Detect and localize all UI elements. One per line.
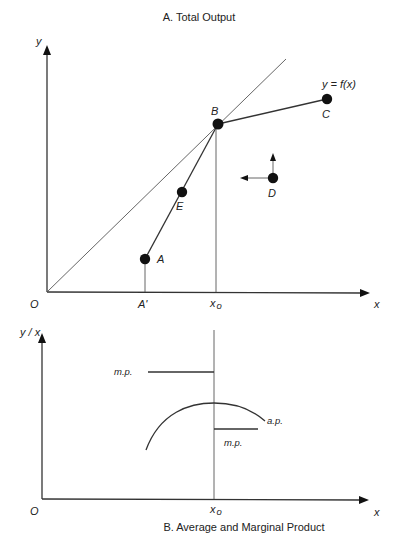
- point-a: [140, 254, 150, 264]
- point-c: [322, 94, 332, 104]
- point-b: [213, 119, 224, 130]
- point-b-label: B: [211, 105, 218, 117]
- panel-b-x-axis: [42, 499, 360, 500]
- arrow-up-icon: [270, 153, 276, 161]
- panel-a-x-label: x: [373, 298, 380, 310]
- mp-left-label: m.p.: [114, 366, 132, 377]
- panel-a-y-label: y: [35, 35, 43, 47]
- arrow-left-icon: [240, 175, 248, 181]
- panel-b-title: B. Average and Marginal Product: [163, 521, 324, 533]
- panel-b-origin-label: O: [30, 505, 39, 517]
- ap-curve: [146, 403, 265, 450]
- point-e: [177, 187, 187, 197]
- panel-a-origin-label: O: [30, 298, 39, 310]
- panel-b-x-label: x: [373, 506, 380, 518]
- ray-from-origin: [47, 59, 286, 292]
- point-d-label: D: [268, 187, 276, 199]
- point-a-label: A: [156, 253, 164, 265]
- panel-b-x0-label: xo: [209, 503, 222, 517]
- production-function-diagram: A. Total Output y x O A' xo A E B C y = …: [0, 0, 398, 555]
- y-axis-arrow-icon: [43, 45, 51, 55]
- function-label: y = f(x): [321, 78, 356, 90]
- panel-a-title: A. Total Output: [163, 11, 236, 23]
- segment-b-c: [218, 99, 327, 124]
- x-axis-arrow-icon: [360, 289, 370, 297]
- point-c-label: C: [322, 108, 330, 120]
- mp-right-label: m.p.: [224, 437, 242, 448]
- panel-total-output: A. Total Output y x O A' xo A E B C y = …: [30, 11, 380, 311]
- panel-average-marginal-product: y / x x O xo m.p. m.p. a.p. B. Average a…: [19, 326, 380, 533]
- x-axis-arrow-icon: [359, 496, 369, 504]
- panel-a-x-axis: [47, 292, 362, 293]
- tick-label-x0: xo: [209, 297, 222, 311]
- panel-b-y-label: y / x: [19, 326, 41, 338]
- point-d: [268, 173, 278, 183]
- tick-label-a-prime: A': [137, 298, 148, 310]
- ap-label: a.p.: [267, 415, 283, 426]
- point-e-label: E: [176, 200, 184, 212]
